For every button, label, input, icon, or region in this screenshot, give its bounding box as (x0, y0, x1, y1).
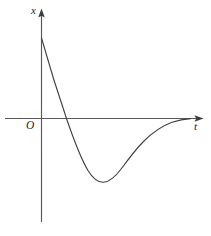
axes-group (5, 9, 204, 223)
y-axis-label: x (31, 5, 36, 16)
decay-curve (42, 38, 191, 182)
x-axis-label: t (194, 121, 197, 132)
graph-figure: x t O (0, 0, 211, 236)
origin-label: O (26, 120, 34, 132)
data-curve-group (42, 38, 191, 182)
plot-canvas (0, 0, 211, 236)
